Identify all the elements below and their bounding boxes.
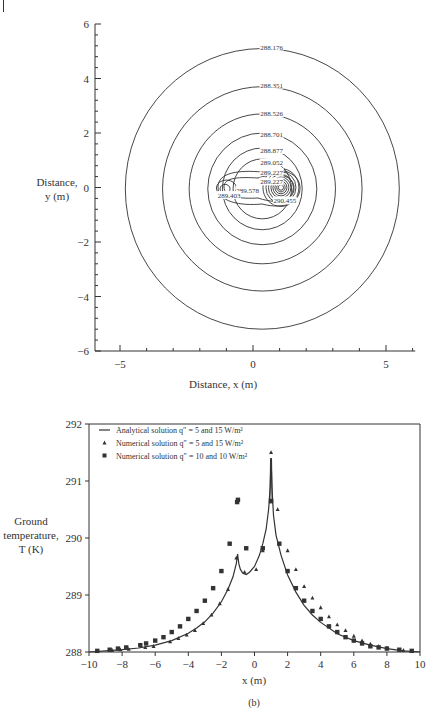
numerical-solution-square-marker [368, 644, 372, 648]
y-tick-label-b: 292 [66, 418, 83, 430]
numerical-solution-square-marker [277, 542, 281, 546]
x-tick-label-b: −10 [80, 658, 98, 670]
numerical-solution-square-marker [186, 617, 190, 621]
numerical-solution-triangle-marker [344, 628, 348, 632]
legend-square-icon [103, 454, 107, 458]
contour-label: 288.351 [260, 82, 283, 90]
numerical-solution-triangle-marker [269, 450, 273, 454]
numerical-solution-square-marker [385, 646, 389, 650]
y-tick-label-b: 288 [66, 646, 83, 658]
numerical-solution-triangle-marker [218, 601, 222, 605]
numerical-solution-triangle-marker [261, 548, 265, 552]
numerical-solution-square-marker [302, 599, 306, 603]
analytical-solution-spike [270, 458, 271, 504]
numerical-solution-square-marker [335, 630, 339, 634]
numerical-solution-square-marker [244, 546, 248, 550]
numerical-solution-triangle-marker [226, 587, 230, 591]
y-tick-label-a: 2 [84, 127, 90, 139]
x-tick-label-b: 2 [285, 658, 291, 670]
numerical-solution-triangle-marker [185, 633, 189, 637]
contour-label: 290.455 [274, 197, 297, 205]
x-tick-label-b: −6 [149, 658, 161, 670]
numerical-solution-square-marker [107, 648, 111, 652]
numerical-solution-triangle-marker [209, 613, 213, 617]
numerical-solution-square-marker [211, 586, 215, 590]
contour-label: 289.227 [260, 169, 283, 177]
legend-entry: Analytical solution q″ = 5 and 15 W/m² [116, 426, 243, 435]
legend-entry: Numerical solution q″ = 5 and 15 W/m² [116, 439, 244, 448]
numerical-solution-triangle-marker [152, 644, 156, 648]
numerical-solution-triangle-marker [118, 648, 122, 652]
y-tick-label-b: 290 [66, 532, 83, 544]
x-tick-label-a: −5 [114, 358, 126, 370]
numerical-solution-triangle-marker [410, 649, 414, 653]
y-tick-label-a: 0 [84, 182, 90, 194]
numerical-solution-square-marker [138, 643, 142, 647]
y-tick-label-a: −4 [77, 291, 89, 303]
numerical-solution-triangle-marker [127, 647, 131, 651]
numerical-solution-square-marker [261, 546, 265, 550]
contour-label: 288.176 [260, 44, 283, 52]
numerical-solution-triangle-marker [193, 628, 197, 632]
x-axis-title-a: Distance, x (m) [189, 378, 257, 391]
y-tick-label-b: 289 [66, 589, 83, 601]
legend-triangle-icon [103, 441, 107, 445]
numerical-solution-square-marker [124, 645, 128, 649]
y-tick-label-a: 6 [84, 18, 90, 30]
x-tick-label-a: 5 [383, 358, 389, 370]
caption-b: (b) [248, 697, 260, 709]
numerical-solution-square-marker [397, 648, 401, 652]
numerical-solution-triangle-marker [243, 570, 247, 574]
numerical-solution-triangle-marker [310, 596, 314, 600]
numerical-solution-square-marker [269, 499, 273, 503]
contour-plot-a: −6−4−20246−505Distance, x (m)Distance,y … [0, 0, 447, 400]
numerical-solution-triangle-marker [294, 567, 298, 571]
numerical-solution-triangle-marker [335, 622, 339, 626]
numerical-solution-square-marker [294, 586, 298, 590]
numerical-solution-triangle-marker [360, 638, 364, 642]
x-tick-label-b: −2 [216, 658, 228, 670]
numerical-solution-square-marker [327, 624, 331, 628]
x-tick-label-b: −8 [116, 658, 128, 670]
y-tick-label-a: −2 [77, 236, 89, 248]
numerical-solution-square-marker [219, 569, 223, 573]
numerical-solution-square-marker [235, 500, 239, 504]
numerical-solution-triangle-marker [286, 548, 290, 552]
numerical-solution-square-marker [116, 646, 120, 650]
numerical-solution-triangle-marker [327, 614, 331, 618]
y-axis-title-a-line1: Distance, [36, 176, 77, 188]
contour-label: 289.227 [260, 178, 283, 186]
analytical-solution-spike [272, 458, 273, 504]
x-tick-label-b: 4 [318, 658, 324, 670]
numerical-solution-square-marker [376, 645, 380, 649]
x-tick-label-b: 6 [351, 658, 357, 670]
y-tick-label-a: 4 [84, 73, 90, 85]
contour-label: 288.877 [260, 147, 283, 155]
numerical-solution-square-marker [227, 542, 231, 546]
x-tick-label-b: −4 [182, 658, 194, 670]
contour-line [125, 49, 399, 330]
numerical-solution-triangle-marker [176, 636, 180, 640]
y-axis-title-a-line2: y (m) [45, 190, 69, 203]
legend-entry: Numerical solution q″ = 10 and 10 W/m² [116, 452, 248, 461]
numerical-solution-triangle-marker [95, 649, 99, 653]
numerical-solution-square-marker [170, 630, 174, 634]
numerical-solution-triangle-marker [234, 556, 238, 560]
numerical-solution-triangle-marker [352, 634, 356, 638]
y-axis-title-b-line1: Ground [14, 515, 48, 527]
numerical-solution-square-marker [360, 641, 364, 645]
numerical-solution-square-marker [319, 617, 323, 621]
numerical-solution-square-marker [352, 638, 356, 642]
analytical-solution-line [89, 458, 420, 652]
numerical-solution-square-marker [95, 649, 99, 653]
numerical-solution-square-marker [203, 599, 207, 603]
numerical-solution-triangle-marker [276, 507, 280, 511]
x-tick-label-a: 0 [250, 358, 256, 370]
numerical-solution-square-marker [310, 609, 314, 613]
y-tick-label-a: −6 [77, 345, 89, 357]
x-axis-title-b: x (m) [242, 674, 266, 687]
x-tick-label-b: 10 [415, 658, 427, 670]
numerical-solution-triangle-marker [377, 644, 381, 648]
numerical-solution-triangle-marker [254, 567, 258, 571]
numerical-solution-triangle-marker [168, 640, 172, 644]
